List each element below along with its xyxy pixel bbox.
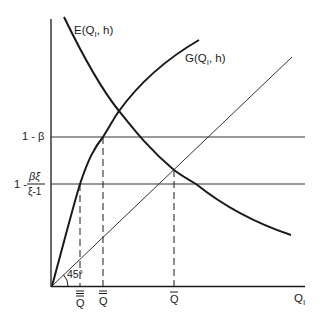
g-label-tail: , h) <box>209 52 226 64</box>
e-label-tail: , h) <box>97 24 114 36</box>
q-double-bar-mark <box>99 291 107 294</box>
g-label-sub: I <box>207 58 209 67</box>
angle-label: 45° <box>67 269 83 280</box>
e-curve-label: E(QI, h) <box>74 25 113 37</box>
y-label-lower-denominator: ξ-1 <box>28 187 41 197</box>
x-mark-q-bar: Q <box>170 294 179 305</box>
x-mark-q-double-bar: Q <box>99 296 108 307</box>
y-label-one-minus-beta: 1 - β <box>22 131 44 142</box>
y-label-lower-numerator: βξ <box>29 171 40 182</box>
q-triple-bar-mark <box>76 291 84 296</box>
e-label-main: E(Q <box>74 24 94 36</box>
g-label-main: G(Q <box>185 52 207 64</box>
x-mark-q-triple-bar: Q <box>76 298 85 309</box>
e-curve <box>64 17 291 235</box>
x-axis-label: QI <box>294 293 305 305</box>
forty-five-degree-line <box>52 57 292 286</box>
x-axis-label-sub: I <box>303 298 305 307</box>
y-label-lower-prefix: 1 - <box>14 179 27 190</box>
x-axis-label-main: Q <box>294 292 303 304</box>
e-label-sub: I <box>94 30 96 39</box>
g-curve-label: G(QI, h) <box>185 53 226 65</box>
diagram-canvas: E(QI, h) G(QI, h) 1 - β 1 - βξ ξ-1 45° Q… <box>0 0 320 319</box>
g-curve <box>52 40 199 286</box>
